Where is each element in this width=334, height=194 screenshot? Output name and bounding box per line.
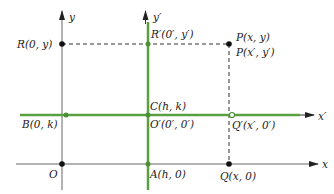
label-A: A(h, 0) (149, 168, 186, 180)
label-O-prime: O′(0′, 0′) (150, 118, 194, 130)
point-B (64, 113, 69, 118)
x-prime-axis-label: x′ (318, 110, 327, 122)
label-P-prime: P(x′, y′) (235, 46, 275, 58)
point-R-prime (146, 42, 151, 47)
point-R (59, 41, 65, 47)
label-R: R(0, y) (16, 38, 52, 50)
point-Q-prime (230, 113, 235, 118)
label-C: C(h, k) (150, 100, 186, 112)
point-O-prime (146, 113, 151, 118)
y-axis-label: y (68, 11, 76, 23)
point-P (226, 41, 232, 47)
point-O (59, 161, 65, 167)
label-P: P(x, y) (235, 31, 270, 43)
label-B: B(0, k) (21, 118, 58, 130)
y-prime-axis-label: y′ (152, 11, 162, 23)
x-axis-label: x (322, 158, 328, 170)
point-Q (226, 161, 232, 167)
label-Q-prime: Q′(x′, 0′) (232, 119, 275, 132)
translation-of-axes-diagram: y y′ x′ x R(0, y) R′(0′, y′) P(x, y) P(x… (0, 0, 334, 194)
label-O: O (49, 168, 58, 180)
label-R-prime: R′(0′, y′) (150, 28, 194, 40)
point-A (146, 162, 151, 167)
label-Q: Q(x, 0) (220, 170, 256, 183)
